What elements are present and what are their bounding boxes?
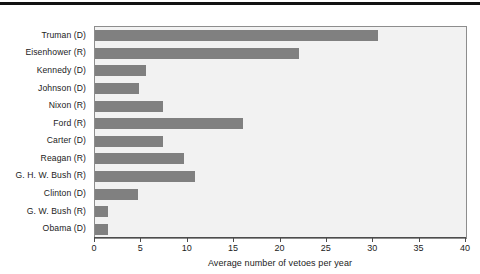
- x-tick-label: 0: [74, 243, 114, 254]
- x-tick-label: 5: [120, 243, 160, 254]
- x-tick-label: 40: [445, 243, 480, 254]
- bar: [95, 171, 195, 182]
- x-tick-label: 10: [167, 243, 207, 254]
- bar: [95, 224, 108, 235]
- category-label: Reagan (R): [0, 153, 86, 163]
- bar: [95, 118, 243, 129]
- x-tick-label: 30: [352, 243, 392, 254]
- category-label: Truman (D): [0, 30, 86, 40]
- category-label: Johnson (D): [0, 83, 86, 93]
- category-axis-labels: Truman (D)Eisenhower (R)Kennedy (D)Johns…: [0, 26, 90, 237]
- bar: [95, 30, 378, 41]
- x-tick-mark: [140, 237, 141, 242]
- bar: [95, 189, 138, 200]
- bar: [95, 65, 146, 76]
- category-label: Kennedy (D): [0, 65, 86, 75]
- bar: [95, 48, 299, 59]
- x-tick-mark: [465, 237, 466, 242]
- category-label: Clinton (D): [0, 188, 86, 198]
- x-tick-label: 15: [213, 243, 253, 254]
- category-label: Eisenhower (R): [0, 47, 86, 57]
- category-label: Ford (R): [0, 118, 86, 128]
- x-axis-title: Average number of vetoes per year: [94, 258, 466, 269]
- x-tick-label: 35: [399, 243, 439, 254]
- x-tick-mark: [187, 237, 188, 242]
- x-tick-label: 25: [306, 243, 346, 254]
- bar: [95, 83, 139, 94]
- x-tick-mark: [372, 237, 373, 242]
- x-tick-label: 20: [260, 243, 300, 254]
- x-tick-mark: [326, 237, 327, 242]
- bar: [95, 206, 108, 217]
- bar: [95, 101, 163, 112]
- bar: [95, 136, 163, 147]
- bar: [95, 153, 184, 164]
- category-label: G. W. Bush (R): [0, 206, 86, 216]
- x-tick-mark: [233, 237, 234, 242]
- category-label: Obama (D): [0, 223, 86, 233]
- x-tick-mark: [419, 237, 420, 242]
- bar-series: [95, 27, 466, 238]
- top-divider-rule: [0, 2, 480, 5]
- x-tick-mark: [280, 237, 281, 242]
- category-label: G. H. W. Bush (R): [0, 170, 86, 180]
- plot-area: [94, 26, 467, 239]
- x-tick-mark: [94, 237, 95, 242]
- category-label: Carter (D): [0, 135, 86, 145]
- category-label: Nixon (R): [0, 100, 86, 110]
- bar-chart-figure: Truman (D)Eisenhower (R)Kennedy (D)Johns…: [0, 0, 480, 274]
